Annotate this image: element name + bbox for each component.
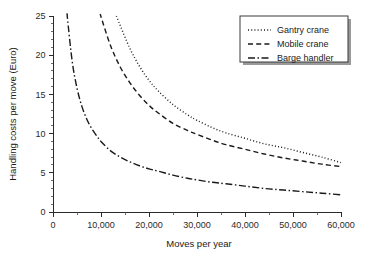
x-tick-label: 10,000 [87, 220, 115, 230]
x-tick-label: 20,000 [135, 220, 163, 230]
x-tick-label: 30,000 [183, 220, 211, 230]
y-axis-title: Handling costs per move (Euro) [7, 47, 18, 181]
y-tick-label: 15 [35, 90, 45, 100]
handling-costs-line-chart: 0510152025 010,00020,00030,00040,00050,0… [0, 0, 373, 259]
legend-label: Mobile crane [277, 39, 329, 49]
x-axis-title: Moves per year [166, 238, 231, 249]
x-tick-label: 50,000 [279, 220, 307, 230]
y-tick-label: 25 [35, 11, 45, 21]
chart-figure: 0510152025 010,00020,00030,00040,00050,0… [0, 0, 373, 259]
y-tick-label: 10 [35, 129, 45, 139]
x-tick-label: 0 [50, 220, 55, 230]
x-tick-label: 40,000 [231, 220, 259, 230]
chart-legend: Gantry craneMobile craneBarge handler [240, 16, 351, 65]
y-tick-label: 5 [40, 168, 45, 178]
y-tick-label: 0 [40, 207, 45, 217]
y-tick-label: 20 [35, 50, 45, 60]
legend-label: Barge handler [277, 53, 334, 63]
x-tick-label: 60,000 [327, 220, 355, 230]
legend-label: Gantry crane [277, 25, 329, 35]
